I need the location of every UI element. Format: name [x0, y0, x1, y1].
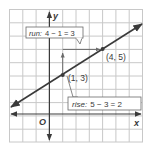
- x-axis-label: x: [133, 118, 140, 128]
- point-label-4-5: (4, 5): [106, 52, 126, 62]
- rise-term: rise:: [72, 100, 87, 109]
- svg-text:run: 4 − 1 = 3: run: 4 − 1 = 3: [29, 29, 75, 38]
- run-expr: 4 − 1 = 3: [45, 29, 75, 38]
- point-1-3: [61, 73, 65, 77]
- point-label-1-3: (1, 3): [68, 73, 88, 83]
- rise-expr: 5 − 3 = 2: [90, 100, 122, 109]
- y-axis-label: y: [52, 11, 59, 21]
- origin-label: O: [39, 117, 46, 127]
- point-4-5: [101, 47, 105, 51]
- run-callout: run: 4 − 1 = 3: [26, 27, 83, 44]
- run-term: run:: [29, 29, 42, 38]
- svg-text:rise: 5 − 3 = 2: rise: 5 − 3 = 2: [72, 100, 122, 109]
- coordinate-graph: y x O (1, 3) (4, 5) run: 4 − 1 = 3 rise:…: [0, 0, 154, 145]
